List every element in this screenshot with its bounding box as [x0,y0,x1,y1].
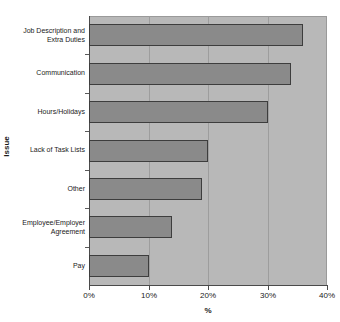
y-axis-tick-label: Communication [4,69,85,78]
bar [89,63,291,85]
y-axis-tick [85,93,89,94]
x-axis-tick [208,286,209,290]
bar-row [89,178,327,200]
x-axis-tick [268,286,269,290]
bar-row [89,101,327,123]
y-axis-tick [85,208,89,209]
x-axis-tick-label: 10% [129,291,169,300]
bar [89,216,172,238]
x-axis-tick-label: 40% [307,291,340,300]
y-axis-tick-label: Job Description and Extra Duties [4,27,85,44]
bar [89,140,208,162]
y-axis-title: Issue [2,125,11,169]
bar-row [89,63,327,85]
bar [89,24,303,46]
x-axis-tick-label: 30% [248,291,288,300]
bar [89,178,202,200]
x-axis-tick-label: 20% [188,291,228,300]
bar [89,101,268,123]
bar-row [89,140,327,162]
x-axis-title: % [89,306,327,315]
y-axis-tick-label: Hours/Holidays [4,108,85,117]
bar-row [89,24,327,46]
y-axis-tick [85,247,89,248]
x-axis-tick [149,286,150,290]
y-axis-tick-label: Employee/Employer Agreement [4,219,85,236]
clipped-chart-title [95,0,310,5]
y-axis-tick [85,131,89,132]
bar [89,255,149,277]
x-axis-tick [89,286,90,290]
y-axis-tick-label: Pay [4,262,85,271]
y-axis-tick [85,170,89,171]
x-axis-tick-label: 0% [69,291,109,300]
y-axis-tick [85,54,89,55]
x-axis-tick [327,286,328,290]
y-axis-tick-label: Other [4,185,85,194]
y-axis-tick-label: Lack of Task Lists [4,146,85,155]
bar-row [89,255,327,277]
bar-row [89,216,327,238]
